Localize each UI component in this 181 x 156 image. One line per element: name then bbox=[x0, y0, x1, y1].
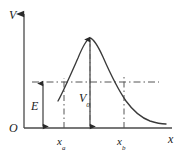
potential-curve bbox=[58, 38, 166, 124]
well-depth-label: V0 bbox=[79, 92, 90, 107]
x-axis-label: x bbox=[168, 133, 173, 145]
turning-point-right-label-sub: b bbox=[122, 144, 126, 152]
energy-label: E bbox=[31, 100, 38, 112]
y-axis-label: V bbox=[9, 9, 16, 21]
potential-energy-diagram: V x O E V0 xa xb bbox=[0, 0, 181, 156]
well-depth-label-sub: 0 bbox=[86, 101, 90, 109]
turning-point-left-label-sub: a bbox=[62, 144, 66, 152]
turning-point-right-label: xb bbox=[117, 136, 125, 150]
turning-point-left-label: xa bbox=[57, 136, 65, 150]
diagram-canvas bbox=[0, 0, 181, 156]
origin-label: O bbox=[9, 122, 18, 134]
